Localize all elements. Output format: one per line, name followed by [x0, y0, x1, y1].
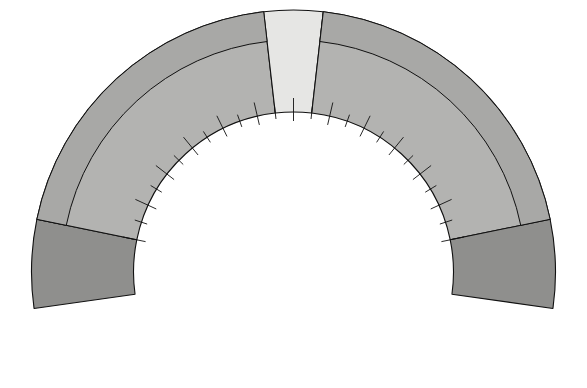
gauge-bands — [32, 10, 556, 308]
acid-base-gauge-diagram — [0, 0, 587, 388]
diagram-canvas — [0, 0, 587, 388]
